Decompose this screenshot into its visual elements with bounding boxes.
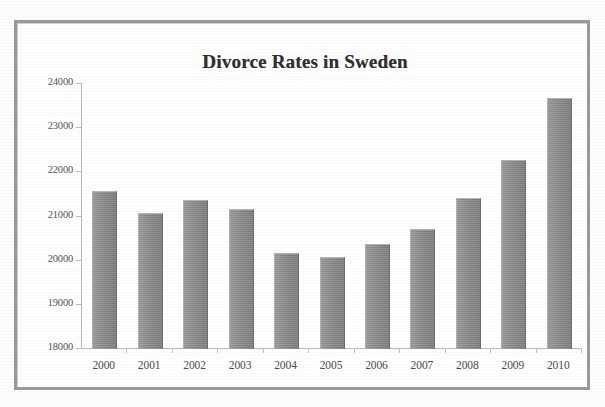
x-tick-label: 2000 (81, 359, 127, 371)
y-tick-label: 24000 (21, 76, 73, 87)
x-tick-mark (536, 348, 537, 353)
y-tick-mark (76, 260, 81, 261)
bar-chart: Divorce Rates in Sweden 1800019000200002… (17, 23, 593, 393)
y-tick-label: 21000 (21, 209, 73, 220)
y-tick-mark (76, 83, 81, 84)
y-tick-label: 23000 (21, 120, 73, 131)
x-tick-mark (354, 348, 355, 353)
bar-2009 (501, 160, 526, 349)
bar-2008 (456, 198, 481, 349)
x-tick-label: 2003 (217, 359, 263, 371)
x-tick-label: 2004 (263, 359, 309, 371)
bar-2010 (547, 98, 572, 349)
x-tick-label: 2009 (490, 359, 536, 371)
y-tick-label: 22000 (21, 164, 73, 175)
x-tick-mark (263, 348, 264, 353)
y-tick-label: 18000 (21, 341, 73, 352)
bar-2005 (320, 257, 345, 349)
y-tick-mark (76, 348, 81, 349)
y-tick-mark (76, 216, 81, 217)
x-tick-mark (581, 348, 582, 353)
x-tick-label: 2007 (399, 359, 445, 371)
bar-2004 (274, 253, 299, 349)
x-tick-mark (217, 348, 218, 353)
bar-2003 (229, 209, 254, 349)
scanned-page: Divorce Rates in Sweden 1800019000200002… (0, 0, 605, 407)
chart-frame-border: Divorce Rates in Sweden 1800019000200002… (14, 20, 590, 390)
x-tick-mark (490, 348, 491, 353)
x-tick-mark (308, 348, 309, 353)
bar-2007 (410, 229, 435, 349)
x-tick-label: 2010 (535, 359, 581, 371)
x-tick-label: 2005 (308, 359, 354, 371)
y-tick-mark (76, 304, 81, 305)
x-tick-mark (172, 348, 173, 353)
x-tick-label: 2002 (172, 359, 218, 371)
x-tick-mark (126, 348, 127, 353)
x-tick-mark (399, 348, 400, 353)
bar-2001 (138, 213, 163, 349)
bar-2006 (365, 244, 390, 349)
y-axis-line (81, 83, 82, 348)
bar-2000 (92, 191, 117, 349)
x-tick-mark (445, 348, 446, 353)
x-tick-label: 2008 (444, 359, 490, 371)
bar-2002 (183, 200, 208, 349)
y-tick-mark (76, 171, 81, 172)
x-tick-label: 2006 (353, 359, 399, 371)
chart-title: Divorce Rates in Sweden (17, 51, 593, 73)
y-tick-label: 19000 (21, 297, 73, 308)
x-tick-label: 2001 (126, 359, 172, 371)
y-tick-label: 20000 (21, 253, 73, 264)
y-tick-mark (76, 127, 81, 128)
